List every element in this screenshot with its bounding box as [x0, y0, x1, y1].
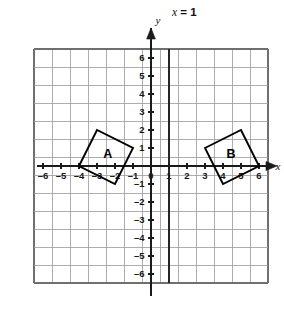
x-tick-label: 1	[166, 170, 172, 181]
x-axis-name-label: x	[275, 160, 281, 172]
y-tick-label: 1	[139, 142, 145, 153]
x-tick-label: 6	[256, 170, 261, 181]
x-tick-label: 3	[202, 170, 207, 181]
y-tick-label: –6	[134, 268, 145, 279]
y-tick-label: –3	[134, 214, 145, 225]
y-tick-label: 3	[139, 106, 144, 117]
shape-label-a: A	[103, 147, 112, 161]
coordinate-plane: –6–5–4–3–2–10123456 –6–5–4–3–2–1123456 A…	[0, 0, 284, 309]
y-axis-name-label: y	[155, 14, 161, 26]
y-tick-label: 6	[139, 52, 144, 63]
x-tick-label: –4	[74, 170, 85, 181]
y-tick-label: –5	[134, 250, 145, 261]
coordinate-grid-figure: –6–5–4–3–2–10123456 –6–5–4–3–2–1123456 A…	[0, 0, 284, 309]
y-tick-label: 5	[139, 70, 145, 81]
y-tick-label: 4	[139, 88, 145, 99]
x-tick-label: –5	[56, 170, 67, 181]
x-tick-label: 0	[148, 170, 153, 181]
y-tick-label: –4	[134, 232, 145, 243]
y-tick-label: 2	[139, 124, 144, 135]
x-tick-label: –6	[38, 170, 49, 181]
axes-group	[37, 28, 277, 296]
shape-label-b: B	[227, 147, 236, 161]
mirror-line-label-rest: = 1	[177, 6, 197, 18]
y-tick-label: –1	[134, 178, 145, 189]
x-tick-label: 2	[184, 170, 189, 181]
y-tick-label: –2	[134, 196, 145, 207]
mirror-line-label: x = 1	[171, 6, 197, 18]
y-axis-arrow-icon	[147, 28, 156, 39]
